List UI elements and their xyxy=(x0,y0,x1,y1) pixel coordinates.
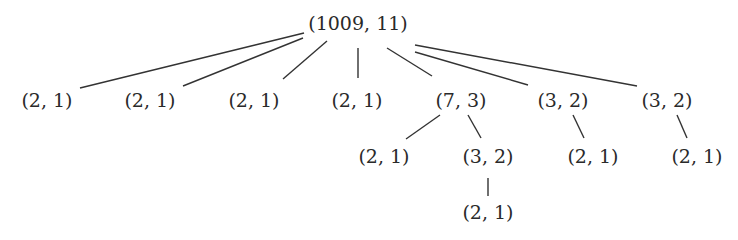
tree-edge-n0-n5 xyxy=(387,48,432,76)
tree-node: (2, 1) xyxy=(567,145,618,167)
tree-edge-n0-n3 xyxy=(283,41,327,79)
tree-root-node: (1009, 11) xyxy=(308,12,407,34)
tree-edge-n0-n6 xyxy=(415,52,528,85)
tree-node: (2, 1) xyxy=(671,145,722,167)
tree-edge-n5-n8 xyxy=(406,115,440,139)
tree-edge-n6-n10 xyxy=(573,115,584,138)
tree-node: (2, 1) xyxy=(228,89,279,111)
tree-diagram: (1009, 11)(2, 1)(2, 1)(2, 1)(2, 1)(7, 3)… xyxy=(0,0,738,240)
tree-edge-n7-n11 xyxy=(677,115,687,138)
tree-node: (2, 1) xyxy=(124,89,175,111)
tree-nodes: (1009, 11)(2, 1)(2, 1)(2, 1)(2, 1)(7, 3)… xyxy=(21,12,722,223)
tree-edge-n0-n1 xyxy=(80,33,304,88)
tree-edge-n5-n9 xyxy=(468,115,481,138)
tree-node: (2, 1) xyxy=(21,89,72,111)
tree-node: (3, 2) xyxy=(462,145,513,167)
tree-node: (3, 2) xyxy=(641,89,692,111)
tree-edge-n0-n2 xyxy=(183,38,303,86)
tree-edge-n0-n7 xyxy=(415,45,637,86)
tree-node: (2, 1) xyxy=(462,201,513,223)
tree-node: (2, 1) xyxy=(358,145,409,167)
tree-edges xyxy=(80,33,687,196)
tree-node: (2, 1) xyxy=(331,89,382,111)
tree-node: (3, 2) xyxy=(537,89,588,111)
tree-node: (7, 3) xyxy=(435,89,486,111)
